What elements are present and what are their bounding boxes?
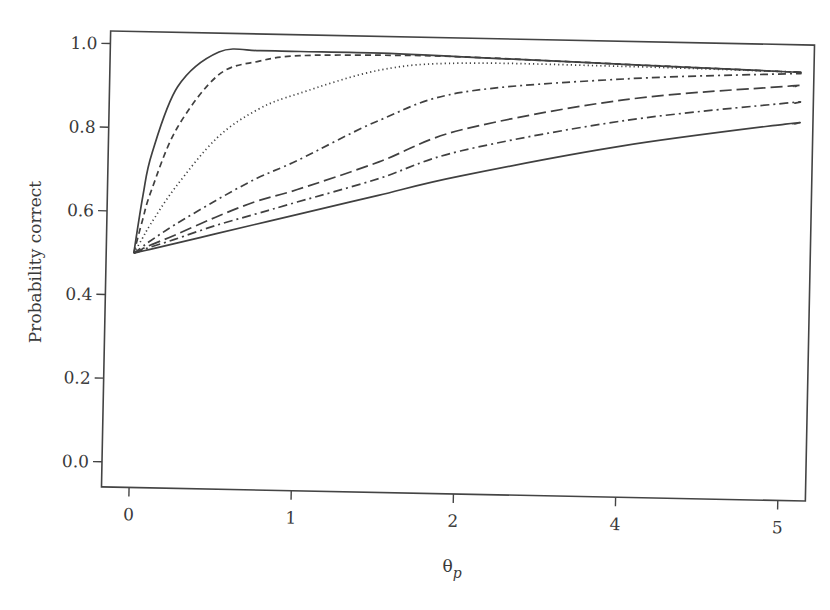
y-tick-label: 0.2 — [63, 367, 90, 388]
plot-frame — [101, 31, 814, 501]
x-axis: 01245 — [123, 487, 783, 537]
x-tick-label: 2 — [447, 511, 458, 531]
x-tick-label: 1 — [285, 508, 296, 528]
curves — [134, 47, 802, 266]
curve-6-dashdot2 — [134, 89, 801, 267]
y-tick-label: 0.6 — [67, 200, 94, 221]
y-tick-label: 1.0 — [70, 33, 97, 54]
x-tick-label: 0 — [123, 504, 134, 524]
curve-5-longdash — [134, 72, 801, 266]
y-tick-label: 0.8 — [68, 116, 95, 137]
plot-area: 0.00.20.40.60.81.0 01245 — [61, 30, 815, 538]
x-axis-label-main: θ — [442, 556, 452, 576]
x-tick-label: 4 — [609, 514, 620, 534]
chart: 0.00.20.40.60.81.0 01245 Probability cor… — [0, 0, 830, 610]
x-tick-label: 5 — [772, 517, 783, 537]
curve-7-solid — [134, 109, 800, 266]
curve-3-dotted — [134, 56, 801, 267]
curve-1-solid — [134, 47, 802, 266]
y-tick-label: 0.4 — [65, 284, 92, 305]
y-axis-label: Probability correct — [25, 181, 45, 343]
y-tick-label: 0.0 — [62, 451, 89, 472]
x-axis-label-sub: p — [453, 565, 462, 581]
x-axis-label: θp — [442, 556, 461, 581]
curve-4-dashdot — [134, 60, 801, 266]
curve-2-dashed — [134, 50, 801, 267]
